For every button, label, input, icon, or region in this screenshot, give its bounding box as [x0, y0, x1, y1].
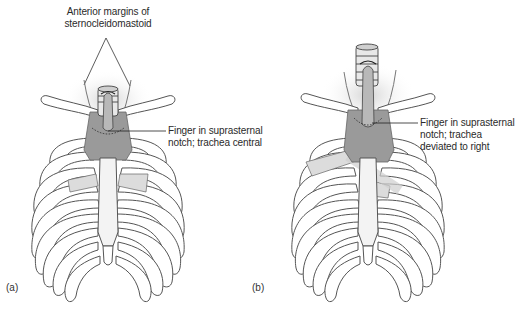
callout-a-line-2: notch; trachea central: [168, 137, 263, 149]
rib-cage-a: [32, 138, 100, 302]
finger-a: [103, 93, 113, 131]
scm-label: Anterior margins of sternocleidomastoid: [58, 6, 158, 30]
callout-b-line-1: Finger in suprasternal: [420, 117, 515, 129]
sternum-a: [98, 158, 118, 246]
panel-label-b: (b): [252, 282, 264, 293]
finger-b: [362, 66, 374, 127]
callout-label-a: Finger in suprasternal notch; trachea ce…: [168, 125, 263, 149]
chest-illustration-b: [260, 0, 520, 317]
figure-b-trachea-deviated: Finger in suprasternal notch; trachea de…: [260, 0, 520, 317]
callout-label-b: Finger in suprasternal notch; trachea de…: [420, 117, 515, 153]
chest-illustration-a: [0, 0, 260, 317]
sternum-b: [358, 158, 378, 246]
callout-b-line-3: deviated to right: [420, 141, 515, 153]
callout-a-line-1: Finger in suprasternal: [168, 125, 263, 137]
callout-b-line-2: notch; trachea: [420, 129, 515, 141]
figure-a-trachea-central: Anterior margins of sternocleidomastoid …: [0, 0, 260, 317]
scm-label-line-1: Anterior margins of: [58, 6, 158, 18]
panel-label-a: (a): [6, 282, 18, 293]
scm-label-line-2: sternocleidomastoid: [58, 18, 158, 30]
